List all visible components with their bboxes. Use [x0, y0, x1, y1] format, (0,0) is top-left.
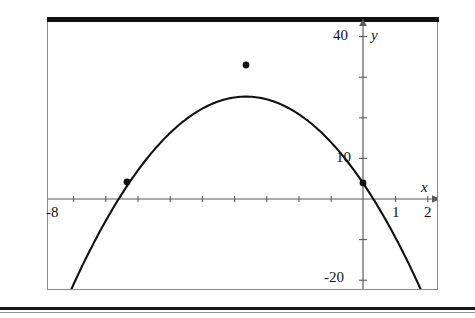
marked-points-group: [124, 62, 367, 187]
parabola-plot: [0, 0, 475, 318]
x-tick-label-1: 1: [392, 205, 400, 220]
parabola-final-group: [67, 97, 426, 300]
y-axis-arrowhead: [359, 19, 367, 27]
x-tick-label-2: 2: [424, 205, 432, 220]
marked-point-left: [124, 179, 131, 186]
x-tick-label-minus8: -8: [46, 205, 59, 220]
figure-page: y x -8 1 2 40 10 -20: [0, 0, 475, 318]
y-axis-label: y: [371, 28, 378, 43]
y-tick-label-minus20: -20: [324, 270, 344, 285]
marked-point-vertex: [243, 62, 250, 69]
x-axis-arrowhead: [432, 195, 440, 203]
x-axis-label: x: [421, 180, 428, 195]
marked-point-y-intercept: [360, 180, 367, 187]
parabola-final: [67, 97, 426, 300]
y-tick-label-40: 40: [333, 28, 348, 43]
y-tick-label-10: 10: [336, 150, 351, 165]
axes-group: [41, 19, 440, 291]
